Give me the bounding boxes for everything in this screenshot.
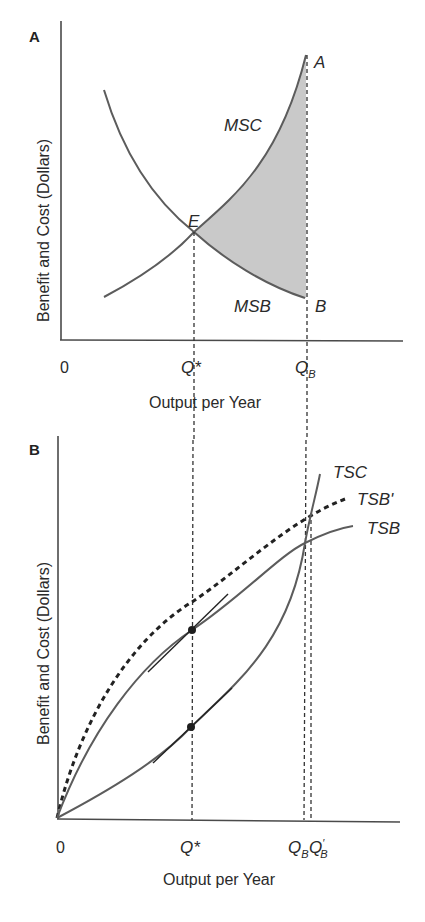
msc-label: MSC [224,116,263,135]
qb-tick-label: QB [288,838,309,860]
tsb-prime-curve [57,499,345,818]
x-axis-label: Output per Year [163,871,276,888]
point-e-label: E [188,212,200,231]
origin-label: 0 [60,359,69,376]
x-axis-label: Output per Year [149,394,262,411]
y-axis-label: Benefit and Cost (Dollars) [35,139,52,322]
tsc-curve [57,474,320,818]
qb-tick-label: QB [295,358,316,380]
qstar-tick-label: Q* [180,838,201,857]
tsb-prime-label: TSB' [357,490,394,509]
panel-b: B TSC TSB' TSB 0 Q* QB Q′B Output per Ye… [29,436,400,888]
panel-b-label: B [29,441,40,458]
y-axis-label: Benefit and Cost (Dollars) [35,562,52,745]
qb-prime-tick-label: Q′B [309,837,328,860]
tsb-curve [57,526,353,818]
tsb-tangent-point [188,626,196,634]
tsb-label: TSB [367,519,400,538]
msb-label: MSB [234,297,271,316]
origin-label: 0 [56,839,65,856]
point-b-label: B [315,297,326,316]
qb-guide-line [304,440,306,820]
qstar-tick-label: Q* [181,358,202,377]
tsc-label: TSC [333,463,368,482]
panel-a: A MSC MSB E A B 0 Q* QB Output per Year … [29,21,403,440]
tsc-tangent-point [187,723,195,731]
diagram-canvas: A MSC MSB E A B 0 Q* QB Output per Year … [0,0,425,922]
x-axis [57,819,400,822]
x-axis [60,340,403,341]
panel-a-label: A [29,28,40,45]
point-a-label: A [313,53,325,72]
